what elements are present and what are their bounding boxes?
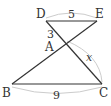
measure-da: 3 xyxy=(47,28,54,41)
point-label-b: B xyxy=(2,86,11,100)
arc-ac xyxy=(67,41,102,82)
measure-de: 5 xyxy=(68,8,75,21)
point-label-a: A xyxy=(44,40,54,54)
measure-ac: x xyxy=(86,51,93,64)
point-label-e: E xyxy=(95,7,104,21)
point-label-d: D xyxy=(36,7,46,21)
geometry-figure: D E A B C 5 3 x 9 xyxy=(0,0,111,106)
measure-bc: 9 xyxy=(53,89,60,102)
point-label-c: C xyxy=(99,86,108,100)
